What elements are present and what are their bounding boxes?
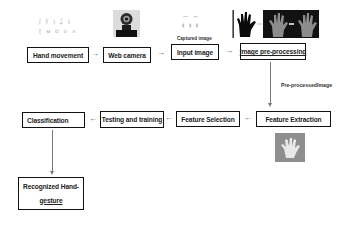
arrow-down-line	[270, 62, 271, 104]
arrow-left-icon: ←	[244, 114, 252, 122]
hand-signs-image-row2: ʈ ʉ ʊ ʋ ʌ	[39, 27, 77, 34]
arrow-right-icon: →	[225, 47, 233, 55]
recognized-label-line1: Recognized Hand-	[23, 180, 79, 194]
arrow-right-icon: →	[157, 49, 165, 57]
arrow-left-icon: ←	[89, 115, 97, 123]
feature-extraction-node: Feature Extraction	[256, 111, 331, 127]
arrow-left-icon: ←	[165, 114, 173, 122]
hand-features-icon	[275, 133, 305, 162]
arrow-right-icon: →	[91, 50, 99, 58]
captured-image-label: Captured image	[177, 36, 212, 41]
arrow-down-icon	[50, 171, 54, 175]
hand-movement-node: Hand movement	[27, 47, 89, 63]
web-camera-node: Web camera	[103, 47, 151, 63]
feature-selection-node: Feature Selection	[176, 111, 240, 127]
feature-extraction-hand-image	[275, 133, 305, 162]
preprocessed-image-label: Pre-processedImage	[281, 82, 332, 88]
webcam-icon	[113, 10, 140, 37]
recognized-hand-gesture-node: Recognized Hand- gesture	[18, 177, 84, 210]
arrow-down-icon	[268, 103, 272, 107]
captured-figures-row1: ⌒ ⌒	[183, 14, 199, 21]
recognized-label-line2: gesture	[39, 194, 62, 208]
image-preprocessing-label: Image pre-processing	[240, 48, 307, 55]
webcam-image	[113, 10, 140, 37]
testing-training-node: Testing and training	[100, 111, 164, 128]
input-image-node: Input image	[171, 44, 219, 60]
preprocessing-hands-image	[232, 9, 320, 39]
captured-figures-row2: ǂ ǂ ǂ	[182, 22, 200, 28]
classification-node: Classification	[22, 112, 85, 128]
hand-signs-image-row1: ʃ ʄ ʅ ʆ ʇ	[39, 17, 71, 24]
hand-preprocessing-icon	[232, 9, 320, 39]
image-preprocessing-node: Image pre-processing	[240, 43, 306, 60]
diagram-canvas: ʃ ʄ ʅ ʆ ʇ ʈ ʉ ʊ ʋ ʌ ⌒ ⌒ ǂ ǂ ǂ Captured i…	[0, 0, 354, 226]
arrow-down-line	[52, 130, 53, 172]
